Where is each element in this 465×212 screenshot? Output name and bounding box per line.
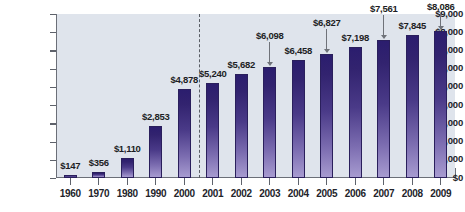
y-axis-tick-mark bbox=[50, 178, 56, 179]
annotation-arrow-head-icon bbox=[381, 35, 387, 39]
x-axis-tick-mark bbox=[155, 178, 156, 185]
y-axis-tick-mark bbox=[50, 105, 56, 106]
annotation-leader-line bbox=[383, 15, 384, 35]
x-axis-tick-mark bbox=[70, 178, 71, 185]
bar bbox=[406, 35, 419, 178]
x-axis-tick-mark bbox=[184, 178, 185, 185]
y-axis-tick-mark bbox=[50, 50, 56, 51]
x-axis-tick-mark bbox=[98, 178, 99, 185]
annotation-arrow-head-icon bbox=[324, 49, 330, 53]
x-axis-tick-mark bbox=[212, 178, 213, 185]
era-divider bbox=[199, 14, 200, 178]
annotation-leader-line bbox=[269, 42, 270, 62]
x-axis-tick-mark bbox=[440, 178, 441, 185]
x-axis-tick-label: 2009 bbox=[422, 188, 460, 199]
x-axis-tick-mark bbox=[412, 178, 413, 185]
y-axis-tick-mark bbox=[50, 32, 56, 33]
x-axis-tick-mark bbox=[269, 178, 270, 185]
x-axis-tick-mark bbox=[298, 178, 299, 185]
bar bbox=[320, 54, 333, 178]
bar-value-label: $7,198 bbox=[331, 32, 379, 43]
y-axis-tick-mark bbox=[50, 87, 56, 88]
bar bbox=[349, 47, 362, 178]
annotation-leader-line bbox=[440, 13, 441, 26]
x-axis-tick-mark bbox=[241, 178, 242, 185]
x-axis-tick-mark bbox=[326, 178, 327, 185]
x-axis-tick-mark bbox=[355, 178, 356, 185]
bar-value-label: $356 bbox=[75, 157, 123, 168]
y-axis-tick-mark bbox=[50, 14, 56, 15]
bar bbox=[64, 175, 77, 178]
bar bbox=[206, 83, 219, 178]
bar-value-label: $1,110 bbox=[103, 143, 151, 154]
y-axis-tick-mark bbox=[50, 69, 56, 70]
x-axis-tick-mark bbox=[127, 178, 128, 185]
bar bbox=[263, 67, 276, 178]
bar bbox=[178, 89, 191, 178]
y-axis-tick-mark bbox=[50, 123, 56, 124]
bar bbox=[92, 172, 105, 178]
bar-value-label-annotated: $8,086 bbox=[417, 1, 465, 12]
bar-value-label: $6,458 bbox=[274, 45, 322, 56]
bar bbox=[292, 60, 305, 178]
annotation-leader-line bbox=[326, 29, 327, 49]
annotation-arrow-head-icon bbox=[438, 26, 444, 30]
bar bbox=[377, 40, 390, 178]
bar-value-label-annotated: $6,827 bbox=[303, 17, 351, 28]
bar-value-label: $2,853 bbox=[132, 111, 180, 122]
bar-value-label: $7,845 bbox=[388, 20, 436, 31]
bar bbox=[235, 74, 248, 178]
bar-value-label: $5,682 bbox=[217, 59, 265, 70]
y-axis-tick-mark bbox=[50, 142, 56, 143]
bar-value-label-annotated: $7,561 bbox=[360, 3, 408, 14]
x-axis-tick-mark bbox=[383, 178, 384, 185]
bar-value-label-annotated: $6,098 bbox=[246, 30, 294, 41]
annotation-arrow-head-icon bbox=[267, 62, 273, 66]
bar bbox=[434, 31, 447, 178]
